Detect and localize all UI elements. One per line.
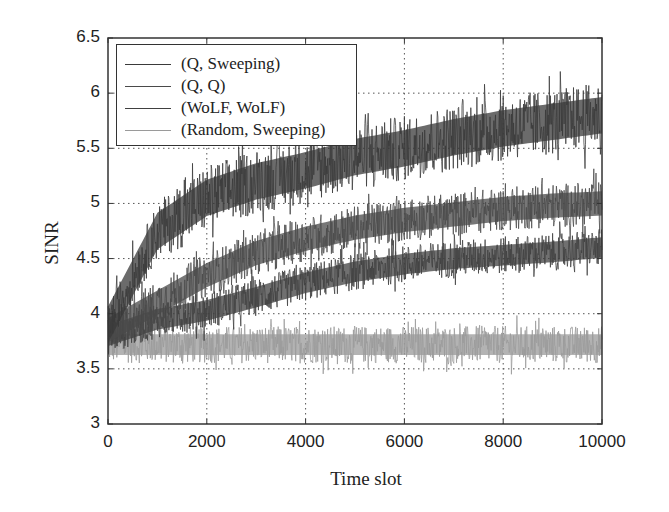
x-tick-label: 8000 [463, 432, 543, 452]
x-tick-label: 4000 [266, 432, 346, 452]
y-tick-label: 4 [60, 303, 100, 323]
legend-line-icon [125, 130, 171, 131]
x-tick-label: 10000 [562, 432, 642, 452]
y-tick-label: 6.5 [60, 27, 100, 47]
legend-item-random-sweeping: (Random, Sweeping) [125, 120, 325, 140]
legend-item-q-q: (Q, Q) [125, 76, 225, 96]
legend-label: (Random, Sweeping) [181, 120, 325, 140]
y-tick-label: 6 [60, 82, 100, 102]
x-tick-label: 6000 [364, 432, 444, 452]
x-tick-label: 2000 [167, 432, 247, 452]
legend-line-icon [125, 108, 171, 109]
y-tick-label: 4.5 [60, 248, 100, 268]
legend-label: (Q, Sweeping) [181, 54, 280, 74]
y-tick-label: 3 [60, 413, 100, 433]
legend: (Q, Sweeping) (Q, Q) (WoLF, WoLF) (Rando… [116, 44, 357, 146]
legend-item-q-sweeping: (Q, Sweeping) [125, 54, 280, 74]
legend-line-icon [125, 86, 171, 87]
y-tick-label: 5 [60, 192, 100, 212]
y-axis-label: SINR [41, 213, 63, 273]
x-tick-label: 0 [68, 432, 148, 452]
legend-line-icon [125, 64, 171, 65]
legend-item-wolf-wolf: (WoLF, WoLF) [125, 98, 285, 118]
x-axis-label: Time slot [306, 468, 426, 490]
y-tick-label: 5.5 [60, 137, 100, 157]
y-tick-label: 3.5 [60, 358, 100, 378]
legend-label: (WoLF, WoLF) [181, 98, 285, 118]
legend-label: (Q, Q) [181, 76, 225, 96]
